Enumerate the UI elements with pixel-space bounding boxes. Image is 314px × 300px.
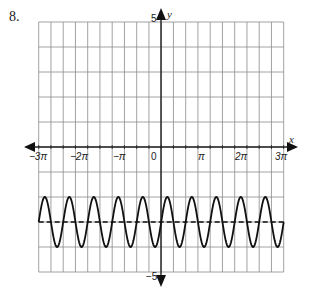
x-axis-ticks <box>39 145 284 149</box>
x-tick-label: π <box>198 151 205 162</box>
axes <box>24 8 298 287</box>
x-tick-label: −3π <box>29 151 47 162</box>
y-tick-label-top: 5 <box>151 13 157 24</box>
x-tick-label: −2π <box>70 151 88 162</box>
sine-graph: x y 5 −5 −3π −2π −π 0 π 2π 3π <box>0 0 314 300</box>
x-axis-name: x <box>288 133 294 145</box>
x-tick-label: −π <box>113 151 126 162</box>
x-tick-label: 3π <box>275 151 288 162</box>
y-axis-up-arrow-icon <box>156 8 166 20</box>
y-axis-name: y <box>166 8 172 20</box>
y-axis-down-arrow-icon <box>156 275 166 287</box>
y-tick-label-bottom: −5 <box>146 271 158 282</box>
x-tick-label: 0 <box>151 151 157 162</box>
x-tick-label: 2π <box>234 151 248 162</box>
